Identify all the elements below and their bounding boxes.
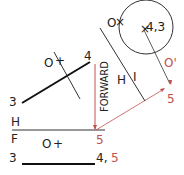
label-fold-h1-i: I bbox=[133, 70, 137, 84]
x-marker-aux-origin: × bbox=[115, 15, 125, 29]
line-3-4-top-view bbox=[22, 62, 90, 103]
plus-marker-front: + bbox=[53, 137, 63, 151]
plus-marker-top: + bbox=[55, 54, 65, 68]
label-fold-h1-h: H bbox=[117, 73, 126, 87]
label-fold-h: H bbox=[11, 115, 20, 129]
label-point-4-top: 4 bbox=[84, 49, 92, 63]
arrow-head-to-5 bbox=[168, 80, 172, 85]
label-fold-f: F bbox=[11, 132, 18, 146]
forward-label: FORWARD bbox=[99, 61, 110, 112]
forward-arrow-head bbox=[93, 125, 97, 130]
label-point-5-fold: 5 bbox=[96, 133, 104, 147]
label-origin-front: O bbox=[42, 137, 51, 151]
label-point-5-aux: 5 bbox=[167, 92, 175, 106]
label-origin-prime: O' bbox=[164, 56, 177, 70]
projection-diagram: O + 4 3 FORWARD H F 3 O + 4, 5 5 H I O ×… bbox=[0, 0, 184, 175]
label-point-43: 4,3 bbox=[146, 20, 165, 34]
label-point-3-top: 3 bbox=[9, 95, 17, 109]
label-point-45-front: 4, bbox=[96, 151, 107, 165]
label-point-3-front: 3 bbox=[9, 151, 17, 165]
label-point-5-front: 5 bbox=[111, 151, 119, 165]
label-origin-top: O bbox=[44, 56, 53, 70]
